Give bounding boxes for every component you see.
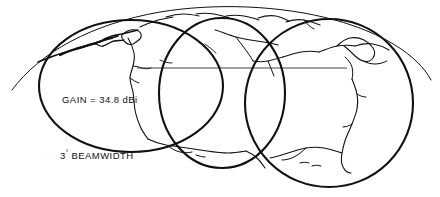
beam-footprint-figure: GAIN = 34.8 dBi 3° BEAMWIDTH [0, 0, 440, 197]
beamwidth-label: 3° BEAMWIDTH [60, 149, 134, 161]
beamwidth-text: BEAMWIDTH [71, 150, 133, 161]
right-beam-footprint [245, 19, 413, 187]
degree-symbol-icon: ° [66, 149, 69, 156]
gain-label: GAIN = 34.8 dBi [62, 94, 138, 105]
